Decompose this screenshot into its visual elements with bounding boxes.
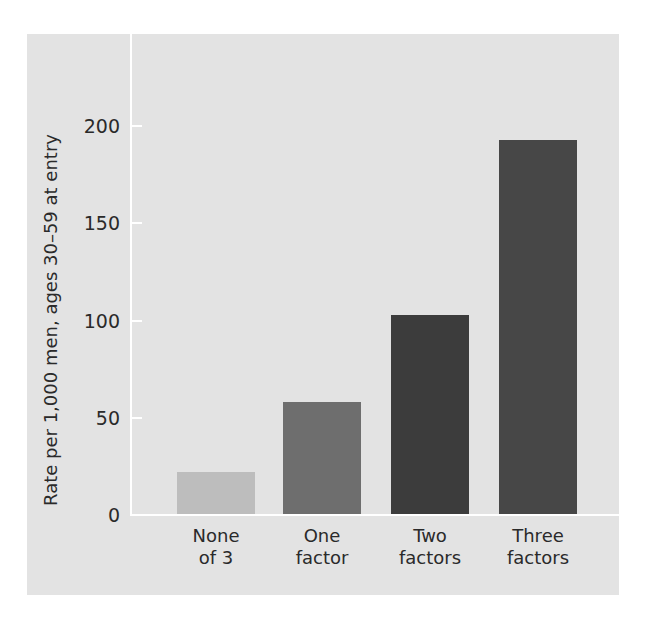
x-tick-label: Twofactors — [375, 525, 485, 569]
y-axis-line — [130, 34, 132, 516]
y-tick-mark — [132, 417, 142, 419]
x-tick-label-line: factors — [375, 547, 485, 569]
x-tick-label-line: factors — [483, 547, 593, 569]
x-tick-label-line: Two — [375, 525, 485, 547]
x-tick-label: Threefactors — [483, 525, 593, 569]
y-tick-label: 100 — [80, 311, 120, 331]
x-tick-label-line: Three — [483, 525, 593, 547]
bar-three-factors — [499, 140, 577, 514]
x-tick-label: Onefactor — [267, 525, 377, 569]
x-tick-label-line: One — [267, 525, 377, 547]
bar-one-factor — [283, 402, 361, 514]
bar-two-factors — [391, 315, 469, 514]
y-tick-label: 200 — [80, 116, 120, 136]
y-tick-label: 150 — [80, 213, 120, 233]
y-tick-label: 0 — [80, 505, 120, 525]
bar-none-of-3 — [177, 472, 255, 514]
y-tick-mark — [132, 222, 142, 224]
x-tick-label-line: of 3 — [161, 547, 271, 569]
x-tick-label-line: None — [161, 525, 271, 547]
x-axis-line — [130, 514, 619, 516]
y-tick-label: 50 — [80, 408, 120, 428]
y-axis-title: Rate per 1,000 men, ages 30–59 at entry — [40, 134, 61, 506]
y-tick-mark — [132, 320, 142, 322]
y-tick-mark — [132, 125, 142, 127]
x-tick-label: Noneof 3 — [161, 525, 271, 569]
x-tick-label-line: factor — [267, 547, 377, 569]
